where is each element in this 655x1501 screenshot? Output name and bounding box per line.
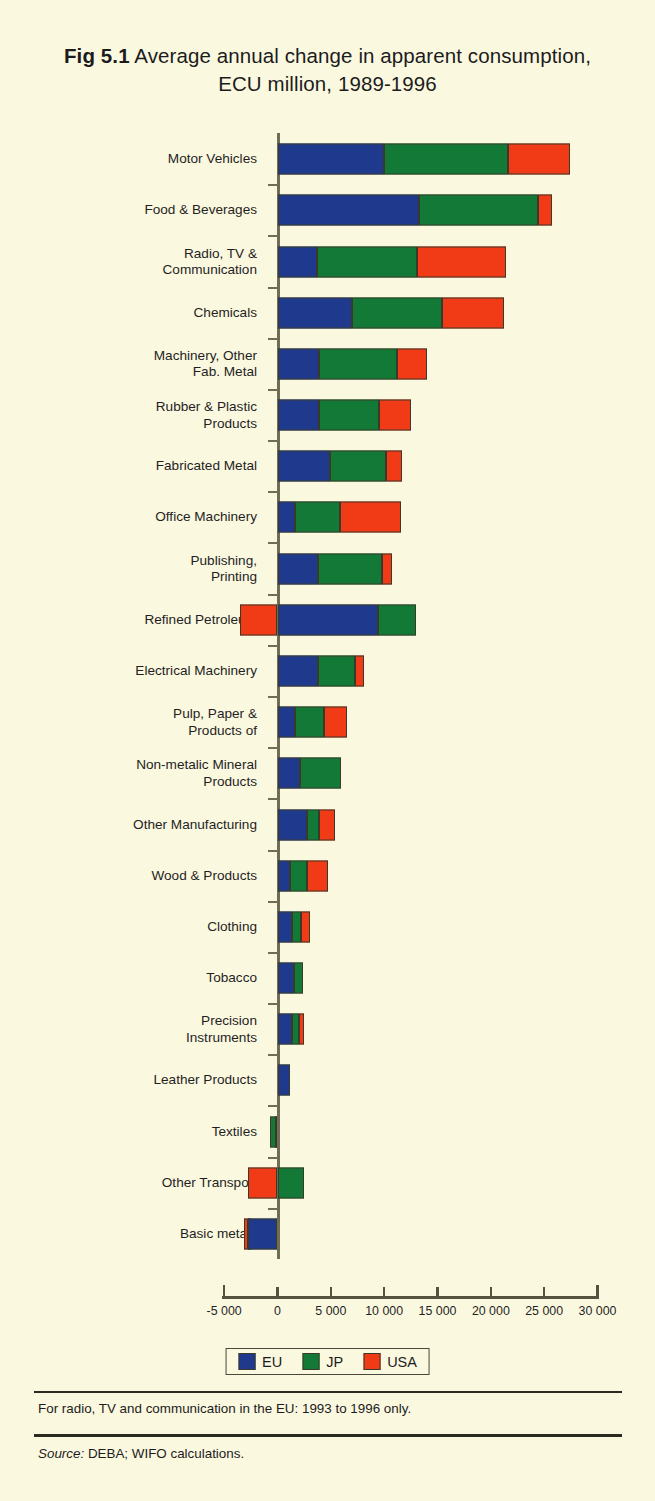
bar-segment-usa xyxy=(379,400,411,431)
legend-label-jp: JP xyxy=(326,1354,343,1370)
x-axis-tick xyxy=(490,1287,492,1298)
bar-segment-usa xyxy=(240,604,277,635)
stacked-bar xyxy=(0,1065,655,1096)
chart-row: Other Transport xyxy=(0,1157,655,1209)
footnote-divider-bottom xyxy=(34,1434,622,1437)
stacked-bar xyxy=(0,809,655,840)
bar-segment-jp xyxy=(319,400,379,431)
y-axis-tick xyxy=(268,1003,279,1005)
bar-segment-jp xyxy=(292,911,301,942)
chart-plot-area: Motor VehiclesFood & BeveragesRadio, TV … xyxy=(0,133,655,1283)
chart-row: Fabricated Metal xyxy=(0,440,655,492)
y-axis-tick xyxy=(268,184,279,186)
stacked-bar xyxy=(0,553,655,584)
stacked-bar xyxy=(0,655,655,686)
y-axis-tick xyxy=(268,696,279,698)
x-axis-tick xyxy=(276,1287,278,1298)
bar-segment-usa xyxy=(248,1167,278,1198)
y-axis-tick xyxy=(268,747,279,749)
bar-segment-jp xyxy=(318,553,382,584)
bar-segment-usa xyxy=(508,144,570,175)
figure-number: Fig 5.1 xyxy=(64,44,130,67)
bar-segment-jp xyxy=(292,1014,299,1045)
x-axis-tick-label: 20 000 xyxy=(472,1304,510,1318)
bar-segment-usa xyxy=(301,911,310,942)
figure-page: Fig 5.1 Average annual change in apparen… xyxy=(0,0,655,1501)
bar-segment-eu xyxy=(278,297,353,328)
x-axis-tick-label: 15 000 xyxy=(419,1304,457,1318)
stacked-bar xyxy=(0,400,655,431)
y-axis-tick xyxy=(268,952,279,954)
bar-segment-usa xyxy=(307,860,327,891)
bar-segment-jp xyxy=(295,502,341,533)
x-axis-tick-label: 0 xyxy=(274,1304,281,1318)
legend-swatch-jp-icon xyxy=(302,1353,319,1370)
bar-segment-jp xyxy=(419,195,537,226)
chart-row: Other Manufacturing xyxy=(0,798,655,850)
bar-segment-usa xyxy=(355,655,364,686)
y-axis-tick xyxy=(268,542,279,544)
y-axis-tick xyxy=(268,235,279,237)
bar-segment-usa xyxy=(324,707,347,738)
chart-row: Wood & Products xyxy=(0,850,655,902)
bar-segment-eu xyxy=(278,911,293,942)
x-axis-tick xyxy=(596,1285,598,1298)
stacked-bar xyxy=(0,195,655,226)
stacked-bar xyxy=(0,144,655,175)
bar-segment-jp xyxy=(330,451,387,482)
x-axis-tick xyxy=(223,1285,225,1298)
figure-title-text: Average annual change in apparent consum… xyxy=(130,44,591,95)
stacked-bar xyxy=(0,246,655,277)
chart-legend: EU JP USA xyxy=(225,1348,430,1375)
y-axis-tick xyxy=(268,594,279,596)
x-axis-tick xyxy=(543,1287,545,1298)
x-axis: -5 00005 00010 00015 00020 00025 00030 0… xyxy=(0,1283,655,1329)
bar-segment-eu xyxy=(278,451,330,482)
stacked-bar xyxy=(0,604,655,635)
y-axis-tick xyxy=(268,850,279,852)
stacked-bar xyxy=(0,297,655,328)
source-label: Source: xyxy=(38,1446,84,1461)
bar-segment-eu xyxy=(278,400,320,431)
chart-row: Pulp, Paper &Products of xyxy=(0,696,655,748)
chart-row: Electrical Machinery xyxy=(0,645,655,697)
bar-segment-eu xyxy=(278,144,385,175)
bar-segment-eu xyxy=(278,707,295,738)
stacked-bar xyxy=(0,1116,655,1147)
bar-segment-usa xyxy=(382,553,392,584)
x-axis-tick xyxy=(330,1287,332,1298)
chart-row: Tobacco xyxy=(0,952,655,1004)
x-axis-tick-label: 5 000 xyxy=(315,1304,346,1318)
y-axis-tick xyxy=(268,798,279,800)
bar-segment-eu xyxy=(278,655,319,686)
bar-segment-eu xyxy=(278,1065,291,1096)
stacked-bar xyxy=(0,707,655,738)
bar-segment-eu xyxy=(278,758,300,789)
bar-segment-usa xyxy=(442,297,504,328)
chart-row: PrecisionInstruments xyxy=(0,1003,655,1055)
y-axis-tick xyxy=(268,338,279,340)
legend-item-jp: JP xyxy=(302,1353,343,1370)
stacked-bar xyxy=(0,1218,655,1249)
legend-item-eu: EU xyxy=(238,1353,282,1370)
x-axis-tick-label: 10 000 xyxy=(365,1304,403,1318)
bar-segment-usa xyxy=(397,348,427,379)
bar-segment-jp xyxy=(319,348,397,379)
x-axis-tick xyxy=(383,1287,385,1298)
chart-row: Leather Products xyxy=(0,1054,655,1106)
bar-segment-usa xyxy=(538,195,552,226)
stacked-bar xyxy=(0,348,655,379)
chart-row: Office Machinery xyxy=(0,491,655,543)
y-axis-tick xyxy=(268,440,279,442)
y-axis-tick xyxy=(268,1054,279,1056)
chart-row: Publishing,Printing xyxy=(0,542,655,594)
legend-label-eu: EU xyxy=(262,1354,282,1370)
bar-segment-jp xyxy=(294,963,304,994)
y-axis-tick xyxy=(268,1105,279,1107)
page-title: Fig 5.1 Average annual change in apparen… xyxy=(40,42,615,98)
stacked-bar xyxy=(0,451,655,482)
bar-segment-eu xyxy=(278,246,317,277)
bar-segment-jp xyxy=(295,707,325,738)
chart-row: Basic metals xyxy=(0,1208,655,1260)
chart-row: Radio, TV &Communication xyxy=(0,235,655,287)
